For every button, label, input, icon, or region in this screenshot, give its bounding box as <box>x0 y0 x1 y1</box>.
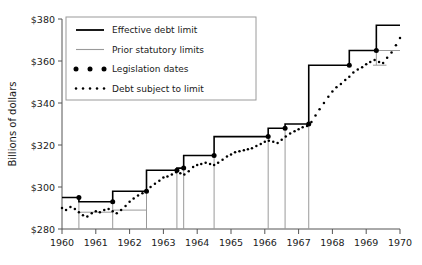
debt-point <box>238 150 241 153</box>
legislation-date-marker <box>266 134 271 139</box>
debt-point <box>264 141 267 144</box>
x-tick-label: 1962 <box>118 237 142 248</box>
chart-legend: Effective debt limitPrior statutory limi… <box>66 17 256 100</box>
debt-point <box>61 207 64 210</box>
debt-point <box>378 61 381 64</box>
debt-point <box>226 155 229 158</box>
debt-point <box>204 162 207 165</box>
x-tick-label: 1969 <box>354 237 378 248</box>
debt-point <box>399 37 402 40</box>
debt-point <box>289 132 292 135</box>
y-tick-label: $360 <box>31 56 55 67</box>
legend-swatch-dot-small <box>75 87 78 90</box>
debt-point <box>78 211 81 214</box>
debt-point <box>154 183 157 186</box>
legend-swatch-dot <box>74 67 79 72</box>
debt-point <box>213 164 216 167</box>
legend-label: Prior statutory limits <box>112 45 204 55</box>
x-tick-label: 1960 <box>50 237 74 248</box>
x-tick-label: 1963 <box>151 237 175 248</box>
debt-point <box>200 163 203 166</box>
debt-point <box>99 211 102 214</box>
debt-point <box>137 194 140 197</box>
debt-point <box>65 209 68 212</box>
x-tick-label: 1965 <box>219 237 243 248</box>
x-tick-label: 1970 <box>388 237 412 248</box>
debt-point <box>314 114 317 117</box>
debt-point <box>132 197 135 200</box>
debt-point <box>390 51 393 54</box>
legislation-date-marker <box>347 63 352 68</box>
debt-point <box>395 44 398 47</box>
debt-point <box>297 128 300 131</box>
debt-point <box>285 135 288 138</box>
debt-point <box>107 208 110 211</box>
legislation-date-marker <box>144 189 149 194</box>
debt-point <box>166 175 169 178</box>
y-tick-label: $300 <box>31 182 55 193</box>
debt-point <box>179 172 182 175</box>
legislation-date-marker <box>374 48 379 53</box>
debt-point <box>327 95 330 98</box>
x-tick-label: 1968 <box>320 237 344 248</box>
debt-point <box>234 151 237 154</box>
x-tick-label: 1961 <box>84 237 108 248</box>
y-axis-title-text: Billions of dollars <box>7 81 18 166</box>
debt-point <box>382 62 385 65</box>
legend-swatch-dot-small <box>96 87 99 90</box>
debt-point <box>82 214 85 217</box>
legislation-date-marker <box>76 195 81 200</box>
debt-point <box>361 66 364 69</box>
debt-point <box>69 206 72 209</box>
legislation-date-marker <box>283 126 288 131</box>
debt-point <box>365 63 368 66</box>
debt-point <box>369 61 372 64</box>
debt-point <box>301 126 304 128</box>
legislation-date-marker <box>174 168 179 173</box>
debt-point <box>116 212 119 215</box>
debt-point <box>255 145 258 148</box>
debt-point <box>141 192 144 195</box>
debt-limit-chart: $280$300$320$340$360$380 196019611962196… <box>0 0 422 265</box>
debt-point <box>149 186 152 189</box>
debt-point <box>111 210 114 213</box>
debt-point <box>352 71 355 74</box>
debt-point <box>348 76 351 79</box>
debt-point <box>192 166 195 169</box>
y-tick-label: $380 <box>31 14 55 25</box>
legislation-date-marker <box>110 199 115 204</box>
debt-point <box>74 208 77 211</box>
legislation-date-marker <box>306 122 311 127</box>
debt-point <box>217 162 220 165</box>
legend-swatch-dot <box>102 67 107 72</box>
debt-point <box>247 148 250 151</box>
debt-point <box>230 153 233 156</box>
debt-point <box>268 140 271 143</box>
debt-point <box>86 215 89 218</box>
x-tick-label: 1967 <box>287 237 311 248</box>
chart-canvas: $280$300$320$340$360$380 196019611962196… <box>0 0 422 265</box>
debt-point <box>280 139 283 142</box>
legend-swatch-dot-small <box>82 87 85 90</box>
debt-point <box>340 83 343 86</box>
debt-point <box>272 141 275 144</box>
debt-point <box>188 170 191 173</box>
debt-point <box>196 164 199 167</box>
debt-point <box>373 59 376 62</box>
x-tick-label: 1964 <box>185 237 209 248</box>
debt-point <box>90 212 93 215</box>
debt-point <box>344 79 347 82</box>
debt-point <box>95 210 98 213</box>
legend-label: Debt subject to limit <box>112 84 204 94</box>
y-tick-label: $320 <box>31 140 55 151</box>
y-tick-label: $280 <box>31 224 55 235</box>
debt-point <box>331 90 334 93</box>
debt-point <box>158 179 161 182</box>
debt-point <box>221 158 224 161</box>
debt-point <box>103 209 106 212</box>
debt-point <box>183 173 186 176</box>
legislation-date-marker <box>181 166 186 171</box>
debt-point <box>128 200 131 203</box>
debt-point <box>276 142 279 145</box>
debt-point <box>293 130 296 133</box>
